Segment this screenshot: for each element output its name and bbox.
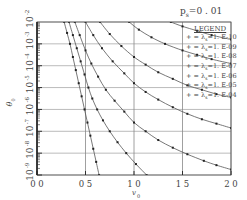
data-marker [89, 135, 91, 137]
data-marker [114, 100, 116, 102]
series-line [64, 22, 99, 175]
data-marker [101, 47, 103, 49]
data-marker [91, 98, 93, 100]
svg-text:10: 10 [25, 125, 35, 137]
y-tick-label: 10-5 [24, 75, 35, 94]
y-tick-label: 10-3 [24, 31, 35, 50]
data-marker [164, 43, 166, 45]
data-marker [186, 113, 188, 115]
data-marker [105, 89, 107, 91]
data-marker [201, 118, 203, 120]
data-marker [186, 153, 188, 155]
data-marker [90, 63, 92, 65]
data-marker [157, 99, 159, 101]
data-marker [72, 56, 74, 58]
svg-text:10: 10 [25, 82, 35, 94]
data-marker [172, 106, 174, 108]
x-tick-label: 2 0 [224, 179, 238, 189]
svg-text:10: 10 [25, 60, 35, 72]
data-marker [72, 34, 74, 36]
data-marker [182, 49, 184, 51]
data-marker [182, 25, 184, 27]
svg-text:10: 10 [25, 16, 35, 28]
data-marker [133, 122, 135, 124]
data-marker [109, 33, 111, 35]
data-marker [75, 69, 77, 71]
legend-marker-icon: + = [186, 81, 201, 89]
data-marker [150, 36, 152, 38]
data-marker [87, 87, 89, 89]
x-axis-label: v [132, 189, 136, 197]
y-tick-label: 10-8 [24, 140, 35, 159]
data-marker [66, 32, 68, 34]
svg-text:-4: -4 [24, 53, 30, 59]
data-marker [112, 60, 114, 62]
data-marker [125, 152, 127, 154]
svg-text:10: 10 [25, 103, 35, 115]
legend-marker-icon: + = [186, 52, 201, 60]
x-tick-label: 0 5 [79, 179, 93, 189]
data-marker [109, 130, 111, 132]
y-tick-label: 10-9 [24, 162, 35, 181]
data-marker [79, 34, 81, 36]
data-marker [135, 163, 137, 165]
legend-entries: + = λs=1. E-10+ = λs=1. E-09+ = λs=1. E-… [186, 34, 232, 101]
data-marker [92, 148, 94, 150]
svg-text:10: 10 [25, 147, 35, 159]
data-marker [157, 139, 159, 141]
y-tick-label: 10-7 [24, 118, 35, 137]
series-line [69, 22, 147, 175]
data-marker [96, 108, 98, 110]
y-axis-label: θ0 [5, 98, 16, 106]
svg-text:-5: -5 [24, 75, 30, 81]
data-marker [69, 43, 71, 45]
data-marker [85, 49, 87, 51]
y-tick-label: 10-4 [24, 53, 35, 72]
svg-text:-2: -2 [24, 10, 30, 15]
svg-text:10: 10 [25, 38, 35, 50]
data-marker [133, 82, 135, 84]
data-marker [95, 161, 97, 163]
y-tick-label: 10-6 [24, 97, 35, 116]
data-marker [172, 147, 174, 149]
data-marker [84, 108, 86, 110]
x-tick-label: 1 0 [127, 179, 141, 189]
legend-marker-icon: + = [186, 72, 201, 80]
svg-text:-9: -9 [24, 162, 30, 168]
data-marker [78, 82, 80, 84]
svg-text:-8: -8 [24, 140, 30, 146]
data-marker [215, 164, 217, 166]
data-marker [117, 141, 119, 143]
data-marker [97, 76, 99, 78]
data-marker [80, 60, 82, 62]
title-value: =0 . 01 [189, 6, 222, 16]
data-marker [145, 64, 147, 66]
legend-marker-icon: + = [186, 33, 201, 41]
data-marker [145, 91, 147, 93]
x-tick-label: 0 0 [30, 179, 44, 189]
svg-text:0: 0 [10, 98, 16, 101]
data-marker [123, 72, 125, 74]
legend: LEGEND + = λs=1. E-10+ = λs=1. E-09+ = λ… [186, 26, 232, 101]
data-marker [84, 73, 86, 75]
svg-text:-3: -3 [24, 31, 30, 37]
legend-marker-icon: + = [186, 62, 201, 70]
legend-entry: + = λs=1. E-04 [186, 92, 232, 102]
data-marker [81, 95, 83, 97]
data-marker [138, 29, 140, 31]
legend-marker-icon: + = [186, 43, 201, 51]
data-marker [86, 122, 88, 124]
data-marker [172, 78, 174, 80]
data-marker [92, 34, 94, 36]
legend-title: LEGEND [194, 26, 232, 33]
chart-title: ps=0 . 01 [180, 6, 222, 18]
data-marker [120, 45, 122, 47]
data-marker [123, 111, 125, 113]
data-marker [203, 160, 205, 162]
legend-marker-icon: + = [186, 91, 201, 99]
x-tick-label: 1 5 [176, 179, 190, 189]
svg-text:-7: -7 [24, 118, 30, 124]
data-marker [102, 119, 104, 121]
data-marker [215, 123, 217, 125]
svg-text:-6: -6 [24, 97, 30, 103]
